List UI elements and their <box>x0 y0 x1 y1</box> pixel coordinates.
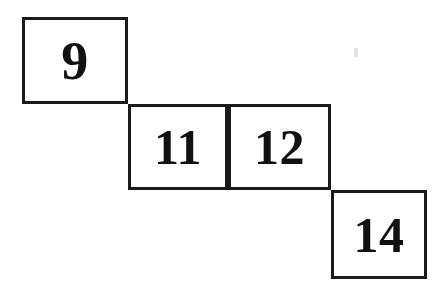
number-cell-11[interactable]: 11 <box>128 104 228 190</box>
scan-artifact-speck <box>354 48 358 57</box>
number-cell-12[interactable]: 12 <box>228 104 331 190</box>
number-cell-label: 9 <box>61 34 89 88</box>
figure-canvas: 9 11 12 14 <box>0 0 442 297</box>
number-cell-label: 12 <box>254 122 305 172</box>
number-cell-9[interactable]: 9 <box>22 17 128 104</box>
number-cell-label: 14 <box>354 210 405 260</box>
number-cell-label: 11 <box>154 122 202 172</box>
number-cell-14[interactable]: 14 <box>331 190 427 279</box>
